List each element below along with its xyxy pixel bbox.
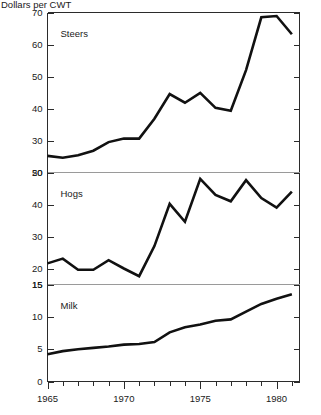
y-axis-tick-label: 30 [32, 135, 43, 146]
y-axis-tick-label: 20 [32, 263, 43, 274]
chart-panel-hogs: 1520304050Hogs [32, 167, 300, 290]
series-line-milk [48, 294, 292, 354]
y-axis-tick-label: 5 [37, 343, 42, 354]
chart-container: Dollars per CWT203040506070Steers1520304… [0, 0, 321, 415]
y-axis-tick-label: 60 [32, 39, 43, 50]
y-axis-tick-label: 10 [32, 311, 43, 322]
y-axis-tick-label: 0 [37, 376, 42, 387]
x-axis-tick-label: 1970 [113, 393, 134, 404]
y-axis-tick-label: 40 [32, 103, 43, 114]
panel-label-milk: Milk [61, 300, 78, 311]
y-axis-tick-label: 30 [32, 231, 43, 242]
livestock-prices-chart: Dollars per CWT203040506070Steers1520304… [0, 0, 321, 415]
panel-label-hogs: Hogs [61, 188, 83, 199]
x-axis-tick-label: 1975 [190, 393, 211, 404]
x-axis-tick-label: 1980 [266, 393, 287, 404]
series-line-hogs [48, 179, 292, 276]
y-axis-tick-label: 50 [32, 167, 43, 178]
chart-panel-milk: 051015Milk [32, 279, 300, 387]
y-axis-tick-label: 40 [32, 199, 43, 210]
y-axis-tick-label: 70 [32, 7, 43, 18]
y-axis-tick-label: 50 [32, 71, 43, 82]
chart-panel-steers: 203040506070Steers [32, 7, 300, 178]
panel-label-steers: Steers [61, 28, 89, 39]
y-axis-tick-label: 15 [32, 279, 43, 290]
x-axis-tick-label: 1965 [37, 393, 58, 404]
